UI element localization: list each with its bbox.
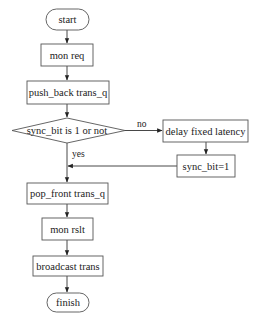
node-finish: finish [47, 293, 89, 312]
node-broadcast: broadcast trans [33, 256, 103, 276]
node-pop-front: pop_front trans_q [27, 183, 108, 204]
node-mon-req: mon req [41, 44, 93, 66]
edge-label-no: no [137, 119, 147, 129]
node-delay-label: delay fixed latency [166, 126, 247, 137]
node-decision-label: sync_bit is 1 or not [27, 125, 108, 136]
node-finish-label: finish [56, 297, 81, 308]
node-broadcast-label: broadcast trans [36, 261, 99, 272]
node-mon-rslt-label: mon rslt [50, 224, 85, 235]
node-push-back: push_back trans_q [27, 81, 109, 104]
node-sync-set-label: sync_bit=1 [183, 161, 230, 172]
node-mon-rslt: mon rslt [42, 218, 93, 240]
node-decision: sync_bit is 1 or not [12, 118, 125, 143]
edge-label-yes: yes [72, 149, 85, 159]
flowchart-canvas: no yes start mon req push_back trans_q s… [0, 0, 254, 321]
node-pop-front-label: pop_front trans_q [30, 188, 106, 199]
node-sync-set: sync_bit=1 [177, 155, 235, 177]
node-start: start [46, 9, 89, 30]
node-delay: delay fixed latency [163, 120, 248, 142]
node-push-back-label: push_back trans_q [29, 87, 108, 98]
node-mon-req-label: mon req [50, 50, 85, 61]
node-start-label: start [58, 14, 76, 25]
